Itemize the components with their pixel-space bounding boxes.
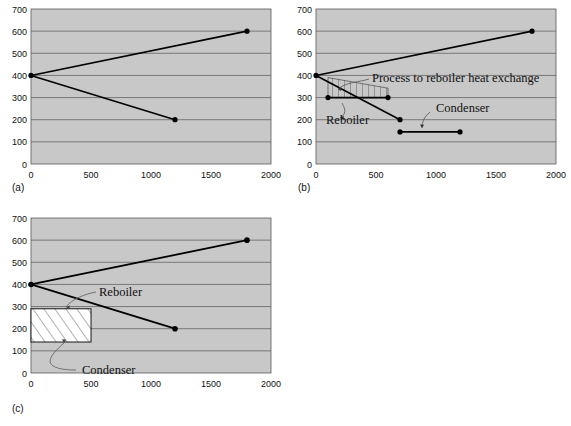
x-axis-labels-b: 0 500 1000 1500 2000 bbox=[313, 170, 566, 180]
panel-c: 700 600 500 400 300 200 100 0 0 500 1000… bbox=[0, 200, 290, 426]
svg-text:1000: 1000 bbox=[426, 170, 446, 180]
data-point-marker bbox=[244, 29, 249, 34]
svg-text:1000: 1000 bbox=[141, 170, 161, 180]
y-axis-labels-c: 700 600 500 400 300 200 100 0 bbox=[12, 214, 27, 379]
svg-text:700: 700 bbox=[297, 5, 312, 15]
svg-text:500: 500 bbox=[12, 258, 27, 268]
svg-text:0: 0 bbox=[313, 170, 318, 180]
svg-text:100: 100 bbox=[12, 137, 27, 147]
svg-text:100: 100 bbox=[12, 346, 27, 356]
svg-text:200: 200 bbox=[12, 115, 27, 125]
annotation-process-to-reboiler-heat-exchange: Process to reboiler heat exchange bbox=[372, 71, 540, 85]
annotation-reboiler-c: Reboiler bbox=[99, 285, 143, 299]
svg-text:600: 600 bbox=[12, 27, 27, 37]
svg-text:600: 600 bbox=[297, 27, 312, 37]
annotation-condenser-c: Condenser bbox=[82, 363, 136, 377]
data-point-marker bbox=[529, 29, 534, 34]
svg-text:0: 0 bbox=[307, 160, 312, 170]
svg-text:0: 0 bbox=[28, 170, 33, 180]
chart-c: 700 600 500 400 300 200 100 0 0 500 1000… bbox=[0, 200, 290, 426]
panel-caption-a: (a) bbox=[12, 182, 24, 193]
panel-a: 700 600 500 400 300 200 100 0 0 500 1000… bbox=[0, 0, 290, 200]
panel-caption-b: (b) bbox=[298, 182, 310, 193]
svg-text:500: 500 bbox=[297, 49, 312, 59]
svg-text:500: 500 bbox=[368, 170, 383, 180]
data-point-marker bbox=[172, 326, 178, 332]
svg-text:300: 300 bbox=[297, 93, 312, 103]
svg-text:0: 0 bbox=[22, 160, 27, 170]
svg-text:500: 500 bbox=[83, 170, 98, 180]
svg-text:2000: 2000 bbox=[261, 170, 281, 180]
panel-b: 700 600 500 400 300 200 100 0 0 500 1000… bbox=[290, 0, 571, 200]
svg-text:2000: 2000 bbox=[261, 379, 281, 389]
svg-text:500: 500 bbox=[12, 49, 27, 59]
svg-text:500: 500 bbox=[83, 379, 98, 389]
svg-text:2000: 2000 bbox=[546, 170, 566, 180]
svg-text:0: 0 bbox=[28, 379, 33, 389]
svg-text:600: 600 bbox=[12, 236, 27, 246]
panel-caption-c: (c) bbox=[12, 403, 24, 414]
svg-text:700: 700 bbox=[12, 214, 27, 224]
x-axis-labels-a: 0 500 1000 1500 2000 bbox=[28, 170, 281, 180]
x-axis-labels-c: 0 500 1000 1500 2000 bbox=[28, 379, 281, 389]
svg-text:300: 300 bbox=[12, 302, 27, 312]
y-axis-labels-a: 700 600 500 400 300 200 100 0 bbox=[12, 5, 27, 170]
chart-a: 700 600 500 400 300 200 100 0 0 500 1000… bbox=[0, 0, 290, 200]
svg-text:1500: 1500 bbox=[201, 170, 221, 180]
annotation-condenser-b: Condenser bbox=[436, 101, 490, 115]
svg-text:300: 300 bbox=[12, 93, 27, 103]
y-axis-labels-b: 700 600 500 400 300 200 100 0 bbox=[297, 5, 312, 170]
data-point-marker bbox=[244, 237, 250, 243]
svg-text:700: 700 bbox=[12, 5, 27, 15]
data-point-marker bbox=[457, 129, 462, 134]
svg-text:1500: 1500 bbox=[486, 170, 506, 180]
region-condenser-box bbox=[31, 309, 91, 342]
svg-text:100: 100 bbox=[297, 137, 312, 147]
svg-text:0: 0 bbox=[22, 369, 27, 379]
svg-text:200: 200 bbox=[12, 324, 27, 334]
data-point-marker bbox=[172, 117, 177, 122]
svg-text:200: 200 bbox=[297, 115, 312, 125]
data-point-marker bbox=[385, 95, 390, 100]
svg-text:1500: 1500 bbox=[201, 379, 221, 389]
chart-b: 700 600 500 400 300 200 100 0 0 500 1000… bbox=[290, 0, 571, 200]
svg-text:400: 400 bbox=[12, 71, 27, 81]
svg-text:1000: 1000 bbox=[141, 379, 161, 389]
data-point-marker bbox=[397, 117, 402, 122]
data-point-marker bbox=[325, 95, 330, 100]
annotation-reboiler-b: Reboiler bbox=[326, 113, 370, 127]
svg-text:400: 400 bbox=[12, 280, 27, 290]
data-point-marker bbox=[397, 129, 402, 134]
svg-text:400: 400 bbox=[297, 71, 312, 81]
